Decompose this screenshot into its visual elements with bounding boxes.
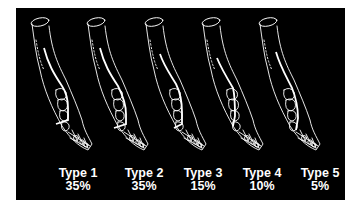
type-5-label: Type 5 5% [290, 167, 350, 193]
type-4-label: Type 4 10% [232, 167, 292, 193]
type-4-percent: 10% [232, 180, 292, 193]
type-3-label: Type 3 15% [173, 167, 233, 193]
type-3-percent: 15% [173, 180, 233, 193]
type-1-percent: 35% [48, 180, 108, 193]
type-1-label: Type 1 35% [48, 167, 108, 193]
type-2-percent: 35% [114, 180, 174, 193]
type-5-percent: 5% [290, 180, 350, 193]
type-2-label: Type 2 35% [114, 167, 174, 193]
